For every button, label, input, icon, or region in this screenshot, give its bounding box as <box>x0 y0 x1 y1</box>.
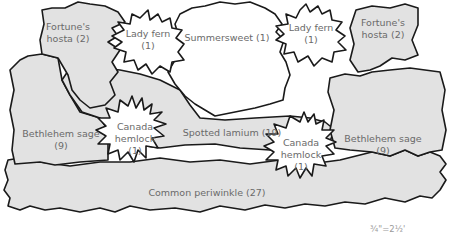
label-canada-hemlock-right: Canada hemlock (1) <box>281 137 321 173</box>
label-canada-hemlock-left: Canada hemlock (1) <box>115 121 155 157</box>
label-common-periwinkle: Common periwinkle (27) <box>148 187 265 199</box>
label-line: hemlock <box>281 149 321 161</box>
label-lady-fern-right: Lady fern (1) <box>289 22 334 46</box>
label-line: (1) <box>289 34 334 46</box>
label-line: Fortune's <box>361 17 405 29</box>
label-line: (1) <box>126 40 171 52</box>
label-line: Summersweet (1) <box>185 32 270 44</box>
label-line: Spotted lamium (19) <box>183 127 281 139</box>
label-line: hosta (2) <box>46 33 90 45</box>
label-fortunes-hosta-right: Fortune's hosta (2) <box>361 17 405 41</box>
label-spotted-lamium: Spotted lamium (19) <box>183 127 281 139</box>
label-line: Canada <box>281 137 321 149</box>
label-line: Lady fern <box>126 28 171 40</box>
label-line: Lady fern <box>289 22 334 34</box>
label-line: Fortune's <box>46 21 90 33</box>
label-line: (1) <box>281 161 321 173</box>
label-lady-fern-left: Lady fern (1) <box>126 28 171 52</box>
label-line: (9) <box>22 140 99 152</box>
label-bethlehem-sage-left: Bethlehem sage (9) <box>22 128 99 152</box>
label-summersweet: Summersweet (1) <box>185 32 270 44</box>
label-line: hosta (2) <box>361 29 405 41</box>
label-line: (9) <box>344 145 421 157</box>
label-line: Common periwinkle (27) <box>148 187 265 199</box>
label-line: hemlock <box>115 133 155 145</box>
label-line: Bethlehem sage <box>344 133 421 145</box>
label-bethlehem-sage-right: Bethlehem sage (9) <box>344 133 421 157</box>
label-line: Bethlehem sage <box>22 128 99 140</box>
label-line: Canada <box>115 121 155 133</box>
scale-label: ¾"=2½' <box>370 224 405 234</box>
label-line: (1) <box>115 145 155 157</box>
label-fortunes-hosta-left: Fortune's hosta (2) <box>46 21 90 45</box>
